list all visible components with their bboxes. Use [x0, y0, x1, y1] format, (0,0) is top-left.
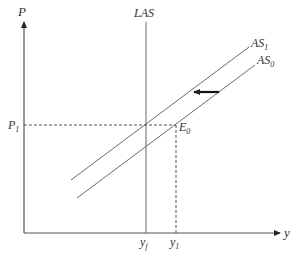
as0-label: AS0	[256, 53, 274, 69]
as0-curve	[77, 65, 255, 198]
e0-label: E0	[178, 120, 190, 136]
y1-label: y1	[169, 235, 179, 251]
yf-label: yf	[139, 235, 149, 251]
as1-label: AS1	[250, 36, 268, 52]
as-las-diagram: P y LAS AS1 AS0 E0 P1 yf y1	[0, 0, 296, 259]
y-axis-label: y	[282, 225, 290, 240]
p-axis-label: P	[17, 4, 26, 19]
as1-curve	[71, 47, 249, 180]
p1-label: P1	[7, 118, 19, 134]
las-label: LAS	[133, 6, 154, 20]
